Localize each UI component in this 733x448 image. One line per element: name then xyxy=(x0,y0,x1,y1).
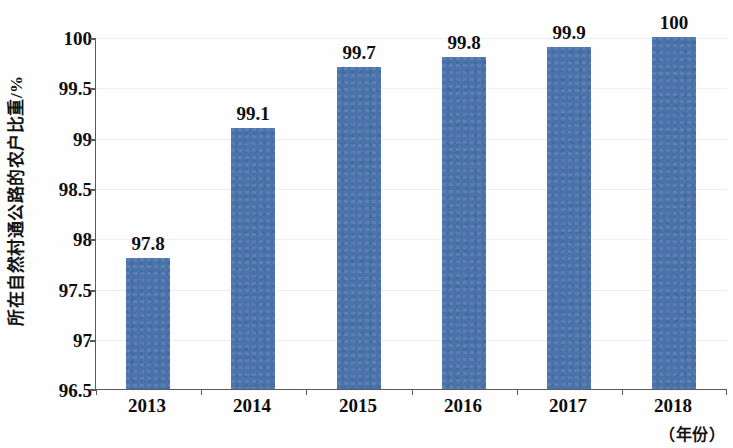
x-tick-mark xyxy=(517,389,518,395)
bar-chart: 所在自然村通公路的农户比重/% 100 99.5 99 98.5 98 97.5… xyxy=(0,0,733,448)
y-tick-mark xyxy=(90,38,96,40)
y-tick-mark xyxy=(90,239,96,241)
x-tick-mark xyxy=(412,389,413,395)
gridline xyxy=(96,340,727,341)
y-tick-label: 97 xyxy=(30,331,92,350)
y-axis-title-text: 所在自然村通公路的农户比重/% xyxy=(2,75,27,325)
gridline xyxy=(96,189,727,190)
bar-2015[interactable] xyxy=(337,67,381,389)
y-tick-label: 98.5 xyxy=(30,180,92,199)
gridline xyxy=(96,139,727,140)
y-tick-label: 96.5 xyxy=(30,381,92,400)
bar-2018[interactable] xyxy=(652,37,696,389)
bar-2017[interactable] xyxy=(547,47,591,389)
y-tick-label: 99.5 xyxy=(30,79,92,98)
bar-2016[interactable] xyxy=(442,57,486,389)
x-tick-label-2013: 2013 xyxy=(97,396,197,415)
x-tick-label-2016: 2016 xyxy=(413,396,513,415)
x-tick-mark xyxy=(96,389,97,395)
y-axis-tick-labels: 100 99.5 99 98.5 98 97.5 97 96.5 xyxy=(28,0,92,448)
y-axis-title: 所在自然村通公路的农户比重/% xyxy=(0,0,28,400)
gridline xyxy=(96,38,727,39)
y-tick-mark xyxy=(90,290,96,292)
bar-value-label: 99.8 xyxy=(419,33,509,52)
bar-2013[interactable] xyxy=(126,258,170,389)
x-tick-label-2014: 2014 xyxy=(202,396,302,415)
bar-value-label: 99.1 xyxy=(208,104,298,123)
x-tick-mark xyxy=(201,389,202,395)
y-tick-mark xyxy=(90,88,96,90)
x-tick-mark xyxy=(622,389,623,395)
x-tick-label-2015: 2015 xyxy=(308,396,408,415)
y-tick-label: 97.5 xyxy=(30,281,92,300)
plot-area: 97.8 99.1 99.7 99.8 99.9 100 xyxy=(95,38,727,390)
y-tick-mark xyxy=(90,189,96,191)
bar-value-label: 100 xyxy=(629,13,719,32)
bar-value-label: 99.9 xyxy=(524,23,614,42)
x-tick-label-2017: 2017 xyxy=(518,396,618,415)
gridline xyxy=(96,88,727,89)
y-tick-label: 100 xyxy=(30,29,92,48)
y-tick-mark xyxy=(90,139,96,141)
x-axis-unit-label: （年份） xyxy=(659,421,725,445)
bar-value-label: 97.8 xyxy=(103,234,193,253)
gridline xyxy=(96,290,727,291)
y-tick-label: 99 xyxy=(30,130,92,149)
bar-2014[interactable] xyxy=(231,128,275,389)
bar-value-label: 99.7 xyxy=(314,43,404,62)
x-tick-mark xyxy=(306,389,307,395)
x-tick-mark xyxy=(726,389,727,395)
y-tick-label: 98 xyxy=(30,230,92,249)
x-tick-label-2018: 2018 xyxy=(623,396,723,415)
y-tick-mark xyxy=(90,340,96,342)
